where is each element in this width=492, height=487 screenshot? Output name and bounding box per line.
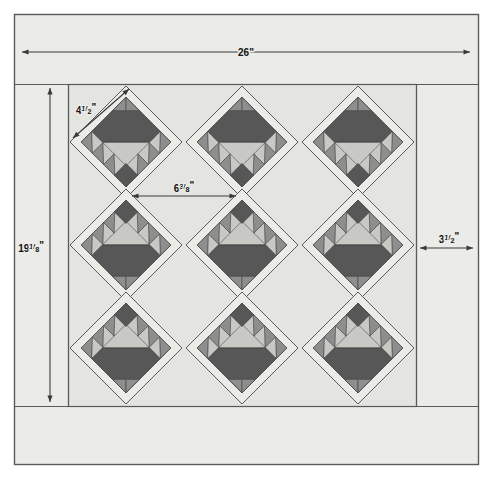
diagram-stage: 26"191/8"31/2"63/8"41/2": [0, 0, 492, 487]
quilt-layout-svg: 26"191/8"31/2"63/8"41/2": [0, 0, 492, 487]
quilt-blocks: [70, 86, 414, 404]
overall-width-label: 26": [238, 47, 254, 58]
quilt-diagram-root: 26"191/8"31/2"63/8"41/2": [0, 0, 492, 487]
